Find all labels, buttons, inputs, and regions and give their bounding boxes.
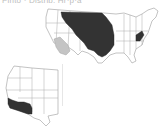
map-divider bbox=[62, 64, 63, 106]
us-range-map bbox=[44, 5, 162, 67]
western-us-range-map bbox=[4, 64, 60, 130]
